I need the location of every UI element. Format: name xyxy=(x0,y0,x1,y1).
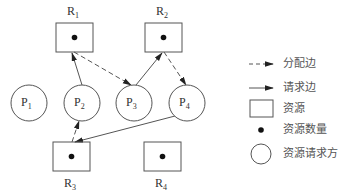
resource-unit-dot-icon xyxy=(161,35,167,41)
legend-dot-icon xyxy=(258,127,264,133)
legend-label-allocation-edge: 分配边 xyxy=(283,58,316,69)
allocation-edge-r2-p4 xyxy=(164,52,186,85)
request-edge-p4-r3 xyxy=(75,116,175,142)
resource-label-r2: R2 xyxy=(156,5,168,20)
resource-unit-dot-icon xyxy=(69,154,75,160)
allocation-edge-r3-p2 xyxy=(72,121,79,142)
legend-label-request-edge: 请求边 xyxy=(283,82,316,93)
resource-allocation-graph xyxy=(0,0,344,196)
resource-label-r1: R1 xyxy=(67,5,79,20)
legend-rectangle-icon xyxy=(250,100,273,117)
processes xyxy=(11,85,205,121)
request-edge-p2-r1 xyxy=(72,53,82,85)
process-label-p1: P1 xyxy=(21,96,32,111)
process-label-p2: P2 xyxy=(74,96,85,111)
process-label-p3: P3 xyxy=(126,96,137,111)
legend-circle-icon xyxy=(251,144,271,164)
resource-unit-dot-icon xyxy=(72,35,78,41)
resource-unit-dot-icon xyxy=(160,154,166,160)
request-edge-p3-r2 xyxy=(136,53,162,85)
legend xyxy=(249,64,273,164)
legend-label-resource-count: 资源数量 xyxy=(283,124,327,135)
resource-label-r4: R4 xyxy=(155,177,167,192)
resource-label-r3: R3 xyxy=(64,177,76,192)
legend-label-resource-requester: 资源请求方 xyxy=(283,148,338,159)
process-label-p4: P4 xyxy=(179,96,190,111)
allocation-edge-r1-p3 xyxy=(74,52,131,85)
legend-label-resource: 资源 xyxy=(283,103,305,114)
